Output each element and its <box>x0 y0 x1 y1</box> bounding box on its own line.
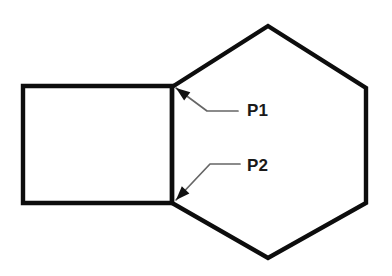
p1-label: P1 <box>247 101 268 120</box>
geometry-figure: P1 P2 <box>0 0 392 276</box>
hexagon-shape <box>172 26 366 258</box>
annotation-p2: P2 <box>176 156 268 200</box>
p2-label: P2 <box>247 156 268 175</box>
rectangle-shape <box>23 86 172 203</box>
p1-arrowhead-icon <box>176 88 190 101</box>
figure-canvas: P1 P2 <box>0 0 392 276</box>
annotation-p1: P1 <box>176 88 268 120</box>
shapes-group <box>23 26 366 258</box>
